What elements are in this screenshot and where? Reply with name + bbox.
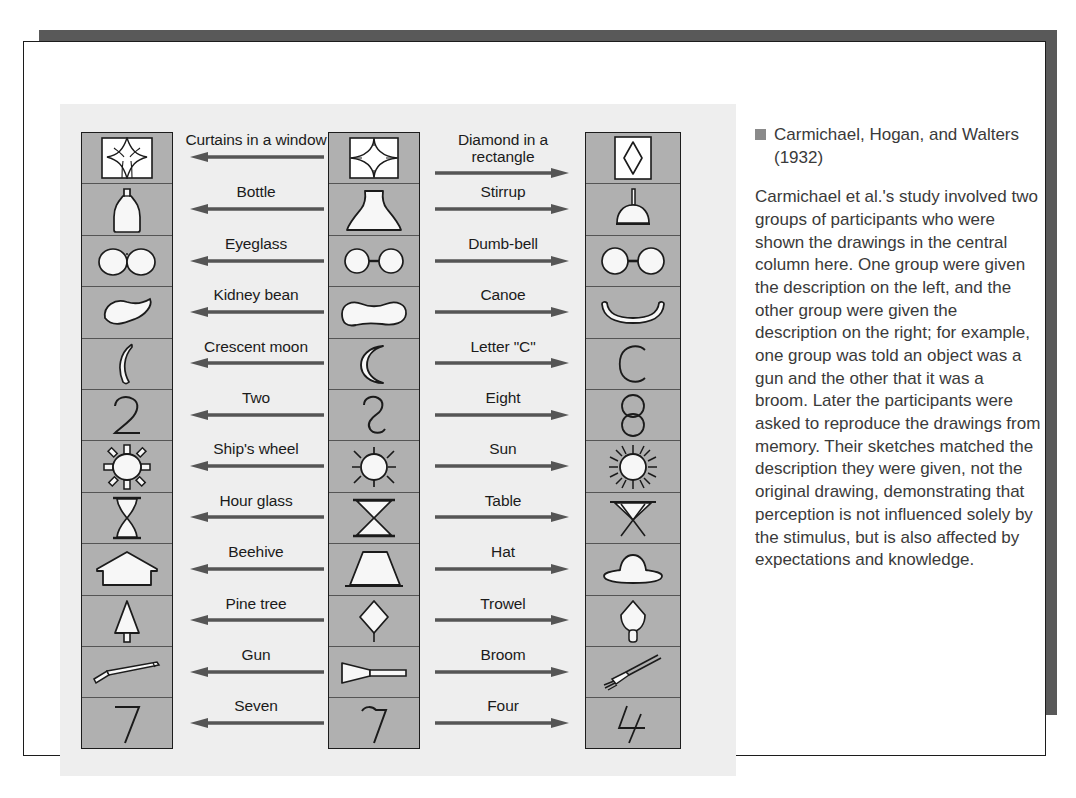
left-description-label: Kidney bean	[213, 286, 298, 304]
right-arrow-icon	[435, 255, 571, 267]
drawing-cell	[586, 287, 680, 338]
drawing-cell	[586, 544, 680, 595]
left-arrow-icon	[188, 717, 324, 729]
left-description-label: Seven	[234, 697, 277, 715]
right-arrow-icon	[435, 614, 571, 626]
right-description-label: Four	[487, 697, 518, 715]
right-description-label: Trowel	[480, 595, 525, 613]
figure-panel: Curtains in a window Bottle Eyeglass Kid…	[60, 104, 736, 776]
description-row: Letter "C"	[428, 338, 578, 389]
diamond-in-square-icon	[349, 137, 399, 179]
caption-heading: Carmichael, Hogan, and Walters (1932)	[755, 124, 1041, 169]
drawing-cell	[82, 441, 172, 492]
description-row: Crescent moon	[181, 338, 331, 389]
page-shadow-right	[1046, 30, 1057, 715]
right-arrow-icon	[435, 409, 571, 421]
description-row: Diamond in a rectangle	[428, 132, 578, 183]
right-description-label: Table	[485, 492, 522, 510]
drawing-cell	[82, 596, 172, 647]
wedge-with-handle-icon	[338, 657, 410, 687]
caption-body-text: Carmichael et al.'s study involved two g…	[755, 186, 1041, 572]
left-description-label: Crescent moon	[204, 338, 308, 356]
left-description-label: Eyeglass	[225, 235, 287, 253]
description-row: Stirrup	[428, 183, 578, 234]
sun-icon	[608, 444, 658, 490]
description-row: Seven	[181, 697, 331, 748]
left-description-label: Ship's wheel	[213, 440, 298, 458]
caption-block: Carmichael, Hogan, and Walters (1932) Ca…	[755, 124, 1041, 572]
right-description-label: Sun	[489, 440, 516, 458]
drawing-cell	[82, 287, 172, 338]
description-row: Hat	[428, 543, 578, 594]
circle-with-spokes-icon	[350, 445, 398, 489]
drawing-cell	[82, 339, 172, 390]
diamond-with-stem-icon	[355, 598, 393, 644]
middle-drawing-column	[328, 132, 420, 749]
figure-grid: Curtains in a window Bottle Eyeglass Kid…	[60, 104, 736, 776]
left-arrow-icon	[188, 666, 324, 678]
curtains-in-a-window-icon	[101, 137, 153, 179]
right-description-label: Eight	[486, 389, 521, 407]
left-description-label: Two	[242, 389, 270, 407]
drawing-cell	[329, 596, 419, 647]
dumbbell-icon	[600, 245, 666, 277]
left-arrow-icon	[188, 255, 324, 267]
right-description-label: Diamond in a rectangle	[428, 132, 578, 165]
left-arrow-icon	[188, 409, 324, 421]
drawing-cell	[586, 493, 680, 544]
drawing-cell	[329, 441, 419, 492]
diamond-in-rectangle-icon	[614, 136, 652, 180]
description-row: Bottle	[181, 183, 331, 234]
left-description-label: Beehive	[228, 543, 283, 561]
drawing-cell	[329, 390, 419, 441]
description-row: Curtains in a window	[181, 132, 331, 183]
drawing-cell	[329, 236, 419, 287]
description-row: Beehive	[181, 543, 331, 594]
hat-icon	[600, 552, 666, 586]
table-icon	[607, 496, 659, 540]
drawing-cell	[586, 698, 680, 749]
left-description-column: Curtains in a window Bottle Eyeglass Kid…	[181, 132, 331, 749]
left-arrow-icon	[188, 357, 324, 369]
left-description-label: Bottle	[236, 183, 275, 201]
right-description-label: Hat	[491, 543, 515, 561]
right-description-label: Broom	[480, 646, 525, 664]
page-card: Curtains in a window Bottle Eyeglass Kid…	[23, 41, 1046, 756]
description-row: Dumb-bell	[428, 235, 578, 286]
two-circles-bar-icon	[343, 245, 405, 277]
ships-wheel-icon	[103, 444, 151, 490]
description-row: Gun	[181, 646, 331, 697]
right-arrow-icon	[435, 167, 571, 179]
left-description-label: Pine tree	[225, 595, 286, 613]
drawing-cell	[329, 184, 419, 235]
description-row: Eight	[428, 389, 578, 440]
bottle-icon	[106, 187, 148, 233]
kidney-bean-icon	[97, 294, 157, 330]
caption-heading-text: Carmichael, Hogan, and Walters (1932)	[774, 124, 1041, 169]
bean-shape-icon	[338, 296, 410, 328]
drawing-cell	[82, 236, 172, 287]
drawing-cell	[82, 184, 172, 235]
right-description-label: Dumb-bell	[468, 235, 538, 253]
description-row: Trowel	[428, 595, 578, 646]
left-description-label: Curtains in a window	[185, 132, 326, 149]
description-row: Ship's wheel	[181, 440, 331, 491]
right-arrow-icon	[435, 203, 571, 215]
right-description-label: Canoe	[480, 286, 525, 304]
drawing-cell	[586, 339, 680, 390]
drawing-cell	[82, 493, 172, 544]
letter-c-icon	[613, 342, 653, 386]
right-drawing-column	[585, 132, 681, 749]
description-row: Canoe	[428, 286, 578, 337]
description-row: Two	[181, 389, 331, 440]
drawing-cell	[329, 287, 419, 338]
digit-seven-icon	[110, 702, 144, 746]
crescent-moon-icon	[111, 342, 143, 386]
drawing-cell	[586, 441, 680, 492]
page-shadow-top	[39, 30, 1057, 41]
right-description-column: Diamond in a rectangle Stirrup Dumb-bell…	[428, 132, 578, 749]
drawing-cell	[329, 647, 419, 698]
flask-shape-icon	[343, 188, 405, 232]
drawing-cell	[329, 544, 419, 595]
trapezoid-shape-icon	[342, 548, 406, 590]
